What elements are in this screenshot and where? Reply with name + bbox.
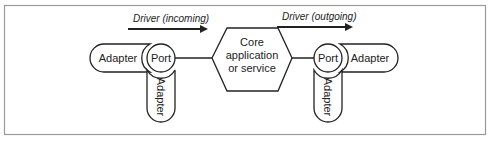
left-adapter-side-label: Adapter	[99, 52, 138, 64]
right-port-label: Port	[318, 52, 338, 64]
left-port-label: Port	[151, 52, 171, 64]
core-label-line2: application	[226, 49, 279, 61]
core-label-line1: Core	[240, 36, 264, 48]
right-adapter-bottom-label: Adapter	[322, 78, 334, 117]
core-label-line3: or service	[228, 62, 276, 74]
driver-outgoing-label: Driver (outgoing)	[282, 11, 356, 22]
right-adapter-side-label: Adapter	[351, 52, 390, 64]
driver-incoming-label: Driver (incoming)	[133, 13, 209, 24]
hexagonal-architecture-diagram: Driver (incoming) Driver (outgoing) Core…	[0, 0, 491, 142]
left-adapter-bottom-label: Adapter	[155, 78, 167, 117]
core-application: Core application or service	[212, 28, 292, 91]
